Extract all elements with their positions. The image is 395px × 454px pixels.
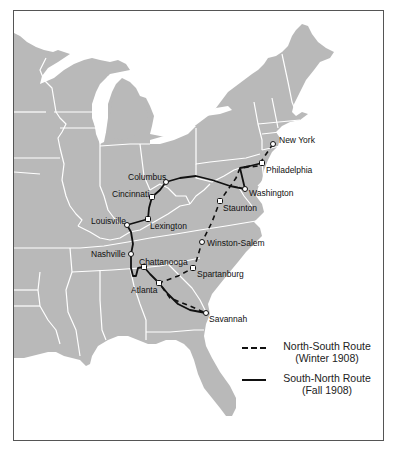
city-dot-nashville <box>129 252 134 257</box>
city-dot-new-york <box>271 142 276 147</box>
map-legend: North-South Route (Winter 1908) South-No… <box>240 340 385 404</box>
label-cincinnati: Cincinnati <box>112 189 149 199</box>
solid-line-icon <box>242 379 266 381</box>
city-dot-washington <box>243 187 248 192</box>
label-atlanta: Atlanta <box>131 285 158 295</box>
city-dot-staunton <box>218 199 223 204</box>
dashed-line-icon <box>242 347 266 349</box>
legend-south-north-title: South-North Route <box>272 372 382 384</box>
label-staunton: Staunton <box>223 203 257 213</box>
label-louisville: Louisville <box>91 216 126 226</box>
legend-north-south-title: North-South Route <box>272 340 382 352</box>
legend-north-south: North-South Route (Winter 1908) <box>240 340 385 370</box>
label-nashville: Nashville <box>91 249 126 259</box>
city-dot-philadelphia <box>260 161 265 166</box>
city-dot-spartanburg <box>191 266 196 271</box>
city-dot-cincinnati <box>150 195 155 200</box>
legend-south-north: South-North Route (Fall 1908) <box>240 372 385 402</box>
label-spartanburg: Spartanburg <box>197 269 244 279</box>
label-lexington: Lexington <box>150 221 187 231</box>
city-dot-winston-salem <box>200 240 205 245</box>
label-chattanooga: Chattanooga <box>139 257 188 267</box>
label-washington: Washington <box>249 188 294 198</box>
label-philadelphia: Philadelphia <box>266 165 313 175</box>
label-columbus: Columbus <box>128 172 166 182</box>
label-new-york: New York <box>279 135 316 145</box>
label-winston-salem: Winston-Salem <box>207 238 265 248</box>
legend-north-south-date: (Winter 1908) <box>272 352 382 364</box>
city-dot-savannah <box>204 311 209 316</box>
legend-south-north-date: (Fall 1908) <box>272 384 382 396</box>
label-savannah: Savannah <box>209 314 248 324</box>
